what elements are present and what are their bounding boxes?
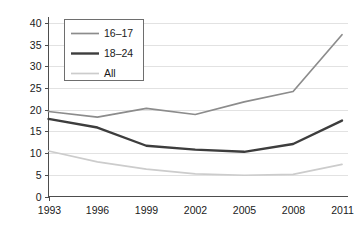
- y-tick-label: 10: [30, 147, 42, 159]
- y-tick-label: 5: [36, 169, 42, 181]
- y-tick-label: 20: [30, 104, 42, 116]
- x-tick-label: 2002: [184, 204, 208, 216]
- line-chart: 0510152025303540 19931996199920022005200…: [0, 0, 364, 229]
- x-tick-label: 2008: [282, 204, 306, 216]
- legend-label-1: 16–17: [104, 27, 133, 39]
- y-axis-ticks: [45, 24, 49, 198]
- series-line-2: [49, 119, 343, 152]
- chart-canvas: 0510152025303540 19931996199920022005200…: [0, 0, 364, 229]
- legend-label-2: 18–24: [104, 47, 133, 59]
- y-tick-label: 35: [30, 39, 42, 51]
- x-tick-label: 1999: [135, 204, 159, 216]
- x-tick-label: 2005: [233, 204, 257, 216]
- y-tick-label: 0: [36, 191, 42, 203]
- legend: 16–1718–24All: [65, 20, 144, 81]
- x-tick-label: 1996: [86, 204, 110, 216]
- series-line-3: [49, 151, 343, 175]
- y-tick-label: 40: [30, 17, 42, 29]
- y-tick-label: 15: [30, 125, 42, 137]
- x-tick-label: 1993: [38, 204, 62, 216]
- y-axis-tick-labels: 0510152025303540: [30, 17, 42, 203]
- legend-label-3: All: [104, 67, 116, 79]
- x-tick-label: 2011: [331, 204, 354, 216]
- y-tick-label: 25: [30, 82, 42, 94]
- x-axis-tick-labels: 1993199619992002200520082011: [38, 204, 354, 216]
- y-tick-label: 30: [30, 60, 42, 72]
